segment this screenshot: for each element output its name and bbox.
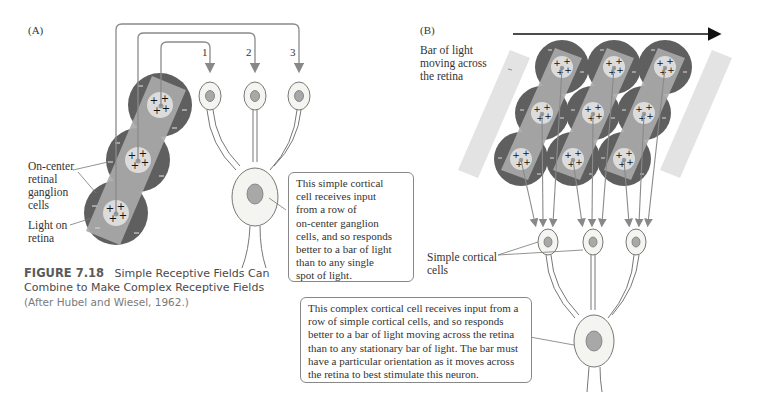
- figure-credit: (After Hubel and Wiesel, 1962.): [24, 295, 274, 309]
- input-number-1: 1: [202, 46, 208, 58]
- svg-text:+: +: [667, 65, 675, 75]
- svg-text:+: +: [544, 111, 552, 121]
- svg-text:+: +: [626, 157, 634, 167]
- svg-text:+: +: [646, 111, 654, 121]
- svg-text:+: +: [616, 65, 624, 75]
- figure-caption: FIGURE 7.18 Simple Receptive Fields Can …: [24, 266, 274, 309]
- svg-text:+: +: [564, 65, 572, 75]
- figure-number: FIGURE 7.18: [24, 266, 104, 280]
- label-ganglion-cells: On-center retinal ganglion cells: [28, 160, 74, 212]
- panel-a-receptive-fields: ++++ ++++ ++++: [70, 24, 310, 268]
- label-bar-of-light: Bar of light moving across the retina: [420, 44, 487, 83]
- figure-title-line2: Combine to Make Complex Receptive Fields: [24, 281, 274, 295]
- input-number-3: 3: [290, 46, 296, 58]
- svg-text:+: +: [595, 111, 603, 121]
- input-number-2: 2: [246, 46, 252, 58]
- svg-text:+: +: [523, 157, 531, 167]
- label-simple-cortical-cells: Simple cortical cells: [427, 251, 497, 277]
- svg-text:+: +: [575, 157, 583, 167]
- callout-simple-cell: This simple cortical cell receives input…: [288, 172, 414, 282]
- label-light-on-retina: Light on retina: [28, 219, 67, 245]
- figure-title-line1: Simple Receptive Fields Can: [115, 267, 270, 280]
- svg-text:+: +: [141, 157, 149, 168]
- panel-b-tag: (B): [420, 24, 435, 36]
- callout-complex-cell: This complex cortical cell receives inpu…: [300, 297, 532, 383]
- svg-text:+: +: [119, 210, 127, 221]
- panel-a-tag: (A): [28, 24, 43, 36]
